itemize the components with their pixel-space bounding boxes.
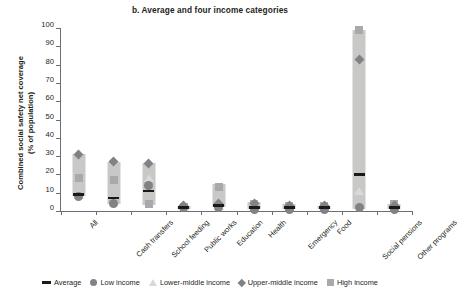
- y-tick: [56, 120, 60, 121]
- legend-item: High income: [327, 278, 378, 287]
- y-tick: [56, 193, 60, 194]
- x-tick: [237, 211, 238, 215]
- y-tick-label: 20: [24, 170, 54, 171]
- legend-marker-triangle-icon: [149, 279, 157, 286]
- y-tick: [56, 28, 60, 29]
- data-group: [201, 28, 236, 211]
- legend-item: Lower-middle income: [149, 278, 230, 287]
- y-tick: [56, 101, 60, 102]
- x-tick: [272, 211, 273, 215]
- marker-dash: [284, 206, 295, 208]
- marker-dash: [354, 173, 365, 175]
- x-axis-label: All: [87, 218, 99, 230]
- marker-dash: [249, 206, 260, 208]
- marker-dash: [143, 190, 154, 192]
- x-tick: [131, 211, 132, 215]
- x-tick: [166, 211, 167, 215]
- y-tick-label: 30: [24, 152, 54, 153]
- chart-title: b. Average and four income categories: [0, 5, 420, 15]
- data-group: [342, 28, 377, 211]
- legend-item: Upper-middle income: [239, 278, 318, 287]
- x-tick: [307, 211, 308, 215]
- data-group: [237, 28, 272, 211]
- legend-label: Lower-middle income: [160, 278, 230, 287]
- marker-circle: [109, 199, 118, 208]
- y-tick-label: 10: [24, 189, 54, 190]
- marker-dash: [319, 206, 330, 208]
- marker-dash: [178, 206, 189, 208]
- y-tick: [56, 138, 60, 139]
- plot-area: 0102030405060708090100 AllCash transfers…: [61, 28, 412, 211]
- x-tick: [412, 211, 413, 215]
- x-tick: [96, 211, 97, 215]
- legend-label: High income: [337, 278, 378, 287]
- y-tick: [56, 65, 60, 66]
- y-tick-label: 100: [24, 24, 54, 25]
- data-group: [61, 28, 96, 211]
- legend-label: Low income: [100, 278, 139, 287]
- marker-dash: [389, 206, 400, 208]
- x-tick: [377, 211, 378, 215]
- data-group: [96, 28, 131, 211]
- legend-item: Low income: [90, 278, 139, 287]
- data-group: [272, 28, 307, 211]
- y-tick-label: 80: [24, 61, 54, 62]
- x-axis-label: Health: [266, 218, 288, 240]
- legend-item: Average: [42, 278, 81, 287]
- marker-square: [355, 26, 363, 34]
- marker-circle: [355, 203, 364, 212]
- y-axis-title: Combined social safety net coverage (% o…: [2, 30, 28, 215]
- y-tick: [56, 46, 60, 47]
- x-axis-label: Emergency: [306, 218, 339, 251]
- marker-triangle: [354, 187, 364, 195]
- marker-dash: [73, 193, 84, 195]
- chart-legend: AverageLow incomeLower-middle incomeUppe…: [0, 278, 420, 287]
- legend-label: Upper-middle income: [248, 278, 318, 287]
- y-tick: [56, 174, 60, 175]
- data-group: [307, 28, 342, 211]
- x-axis-label: Education: [235, 218, 265, 248]
- legend-marker-diamond-icon: [238, 279, 246, 287]
- x-axis-label: School feeding: [169, 218, 210, 259]
- y-tick: [56, 83, 60, 84]
- y-tick-label: 40: [24, 134, 54, 135]
- y-tick-label: 60: [24, 97, 54, 98]
- y-tick: [56, 156, 60, 157]
- marker-square: [110, 176, 118, 184]
- x-tick: [201, 211, 202, 215]
- marker-square: [215, 183, 223, 191]
- legend-label: Average: [54, 278, 81, 287]
- legend-marker-dash-icon: [42, 281, 51, 283]
- legend-marker-square-icon: [327, 279, 334, 286]
- x-tick: [61, 211, 62, 215]
- marker-dash: [213, 204, 224, 206]
- x-tick: [342, 211, 343, 215]
- y-tick-label: 90: [24, 42, 54, 43]
- y-tick: [56, 211, 60, 212]
- y-tick-label: 50: [24, 116, 54, 117]
- data-group: [377, 28, 412, 211]
- marker-square: [75, 174, 83, 182]
- marker-square: [145, 200, 153, 208]
- data-group: [131, 28, 166, 211]
- x-axis-label: Food: [335, 218, 353, 236]
- marker-dash: [108, 197, 119, 199]
- y-tick-label: 70: [24, 79, 54, 80]
- legend-marker-circle-icon: [90, 279, 97, 286]
- data-group: [166, 28, 201, 211]
- y-tick-label: 0: [24, 207, 54, 208]
